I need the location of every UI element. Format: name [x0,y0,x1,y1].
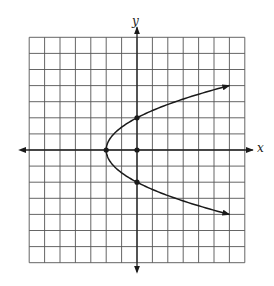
point-vertex [104,147,109,152]
point-origin [134,147,139,152]
y-axis-label: y [132,14,139,28]
point-y-intercept-top [134,115,139,120]
parabola-graph [0,0,274,286]
x-axis-label: x [257,141,264,155]
point-y-intercept-bottom [134,180,139,185]
